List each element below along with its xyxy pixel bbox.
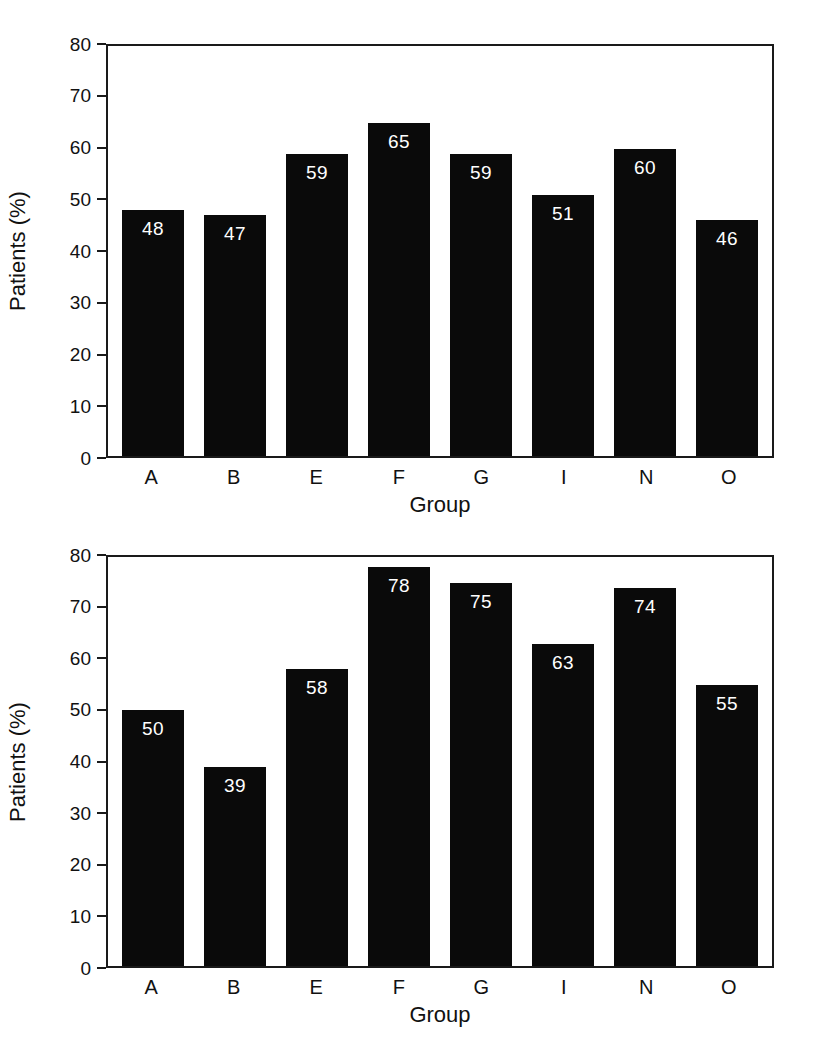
x-axis-tick-label-i: I (523, 466, 606, 489)
bar-value-label: 47 (224, 224, 246, 243)
y-axis-tick-label: 30 (70, 803, 97, 822)
bar-value-label: 59 (470, 163, 492, 182)
bar-slot: 50 (112, 557, 194, 966)
bar-value-label: 63 (552, 653, 574, 672)
y-axis-tick-label: 50 (70, 189, 97, 208)
bar-b[interactable]: 47 (204, 215, 266, 456)
bar-a[interactable]: 48 (122, 210, 184, 456)
x-axis-tick-label-i: I (523, 976, 606, 999)
chart-panel-top: Patients (%) 01020304050607080 484759655… (0, 0, 823, 520)
plot-area-bottom: 5039587875637455 (106, 555, 774, 968)
bar-value-label: 65 (388, 132, 410, 151)
y-axis-tick-mark (97, 657, 106, 659)
y-axis-tick-label: 10 (70, 906, 97, 925)
x-axis-tick-label-f: F (358, 466, 441, 489)
bar-g[interactable]: 59 (450, 154, 512, 456)
plot-inner-bottom: 5039587875637455 (108, 557, 772, 966)
y-axis-tick-mark (97, 709, 106, 711)
y-axis-tick-mark (97, 915, 106, 917)
bar-slot: 48 (112, 46, 194, 456)
bar-n[interactable]: 74 (614, 588, 676, 966)
y-axis-tick-mark (97, 967, 106, 969)
bar-i[interactable]: 63 (532, 644, 594, 966)
bar-value-label: 74 (634, 597, 656, 616)
bar-slot: 51 (522, 46, 604, 456)
y-axis-tick-label: 20 (70, 345, 97, 364)
y-axis-tick-label: 70 (70, 86, 97, 105)
bar-slot: 39 (194, 557, 276, 966)
x-axis-tick-label-g: G (440, 976, 523, 999)
y-axis-top: 01020304050607080 (0, 44, 106, 458)
x-axis-tick-labels-top: ABEFGINO (106, 466, 774, 489)
bar-i[interactable]: 51 (532, 195, 594, 456)
bar-a[interactable]: 50 (122, 710, 184, 966)
bar-value-label: 55 (716, 694, 738, 713)
bar-value-label: 48 (142, 219, 164, 238)
y-axis-bottom: 01020304050607080 (0, 555, 106, 968)
y-axis-tick-label: 40 (70, 241, 97, 260)
plot-area-top: 4847596559516046 (106, 44, 774, 458)
y-axis-tick-mark (97, 198, 106, 200)
x-axis-tick-label-b: B (193, 976, 276, 999)
x-axis-tick-label-n: N (605, 976, 688, 999)
x-axis-title-top: Group (106, 492, 774, 518)
y-axis-tick-label: 30 (70, 293, 97, 312)
bar-slot: 58 (276, 557, 358, 966)
y-axis-tick-label: 70 (70, 597, 97, 616)
bar-value-label: 51 (552, 204, 574, 223)
bar-value-label: 58 (306, 678, 328, 697)
y-axis-tick-mark (97, 761, 106, 763)
bar-o[interactable]: 46 (696, 220, 758, 456)
y-axis-tick-label: 50 (70, 700, 97, 719)
y-axis-tick-label: 60 (70, 138, 97, 157)
bar-value-label: 39 (224, 776, 246, 795)
bar-slot: 46 (686, 46, 768, 456)
x-axis-tick-label-f: F (358, 976, 441, 999)
bar-b[interactable]: 39 (204, 767, 266, 966)
bar-value-label: 78 (388, 576, 410, 595)
bar-e[interactable]: 58 (286, 669, 348, 966)
x-axis-tick-labels-bottom: ABEFGINO (106, 976, 774, 999)
y-axis-tick-label: 10 (70, 396, 97, 415)
bar-o[interactable]: 55 (696, 685, 758, 966)
x-axis-tick-label-e: E (275, 976, 358, 999)
bar-slot: 59 (440, 46, 522, 456)
x-axis-tick-label-o: O (688, 976, 771, 999)
bar-value-label: 60 (634, 158, 656, 177)
bar-slot: 78 (358, 557, 440, 966)
bar-slot: 74 (604, 557, 686, 966)
bar-e[interactable]: 59 (286, 154, 348, 456)
bar-value-label: 59 (306, 163, 328, 182)
bar-slot: 60 (604, 46, 686, 456)
bar-slot: 63 (522, 557, 604, 966)
y-axis-tick-mark (97, 250, 106, 252)
y-axis-tick-mark (97, 354, 106, 356)
y-axis-tick-label: 80 (70, 545, 97, 564)
bar-value-label: 46 (716, 229, 738, 248)
x-axis-tick-label-n: N (605, 466, 688, 489)
y-axis-tick-mark (97, 43, 106, 45)
x-axis-tick-label-a: A (110, 466, 193, 489)
y-axis-tick-label: 60 (70, 648, 97, 667)
y-axis-tick-label: 0 (80, 448, 97, 467)
bar-series-bottom: 5039587875637455 (108, 557, 772, 966)
bar-series-top: 4847596559516046 (108, 46, 772, 456)
y-axis-tick-mark (97, 147, 106, 149)
bar-slot: 55 (686, 557, 768, 966)
x-axis-tick-label-e: E (275, 466, 358, 489)
y-axis-tick-mark (97, 812, 106, 814)
x-axis-tick-label-g: G (440, 466, 523, 489)
bar-f[interactable]: 78 (368, 567, 430, 966)
x-axis-tick-label-a: A (110, 976, 193, 999)
bar-slot: 59 (276, 46, 358, 456)
x-axis-title-bottom: Group (106, 1002, 774, 1028)
y-axis-tick-mark (97, 864, 106, 866)
y-axis-tick-mark (97, 554, 106, 556)
bar-f[interactable]: 65 (368, 123, 430, 456)
y-axis-tick-mark (97, 606, 106, 608)
bar-g[interactable]: 75 (450, 583, 512, 966)
y-axis-tick-mark (97, 95, 106, 97)
chart-panel-bottom: Patients (%) 01020304050607080 503958787… (0, 520, 823, 1045)
figure-two-bar-charts: Patients (%) 01020304050607080 484759655… (0, 0, 823, 1045)
bar-n[interactable]: 60 (614, 149, 676, 457)
